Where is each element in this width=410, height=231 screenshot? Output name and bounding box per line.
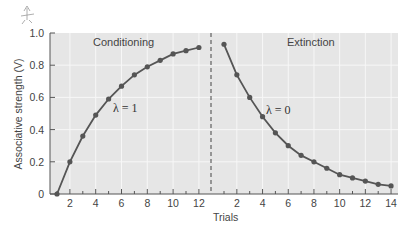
x-tick-label: 12 <box>193 197 205 209</box>
data-point <box>311 159 316 164</box>
x-tick-label: 10 <box>167 197 179 209</box>
plot-area <box>50 33 398 194</box>
y-tick-label: 0.2 <box>29 156 44 168</box>
data-point <box>260 114 265 119</box>
data-point <box>158 58 163 63</box>
conditioning-label: Conditioning <box>93 36 154 48</box>
data-point <box>93 113 98 118</box>
data-point <box>337 172 342 177</box>
data-point <box>286 143 291 148</box>
data-point <box>145 64 150 69</box>
data-point <box>80 133 85 138</box>
y-tick-label: 0 <box>38 188 44 200</box>
data-point <box>247 95 252 100</box>
data-point <box>54 191 59 196</box>
data-point <box>132 72 137 77</box>
x-axis-title: Trials <box>213 211 238 223</box>
y-axis-title: Associative strength (V) <box>12 59 24 170</box>
lambda-conditioning-label: λ = 1 <box>113 101 138 115</box>
data-point <box>388 183 393 188</box>
x-tick-label: 12 <box>360 197 372 209</box>
logo-icon <box>21 6 34 24</box>
x-tick-label: 2 <box>234 197 240 209</box>
x-tick-label: 6 <box>119 197 125 209</box>
y-tick-label: 0.6 <box>29 91 44 103</box>
data-point <box>234 72 239 77</box>
data-point <box>350 175 355 180</box>
data-point <box>106 96 111 101</box>
data-point <box>183 48 188 53</box>
chart: 00.20.40.60.81.0 246810122468101214 Cond… <box>0 0 410 231</box>
data-point <box>299 153 304 158</box>
extinction-label: Extinction <box>287 36 335 48</box>
x-tick-label: 4 <box>93 197 99 209</box>
data-point <box>273 130 278 135</box>
data-point <box>171 51 176 56</box>
data-point <box>67 159 72 164</box>
data-point <box>363 179 368 184</box>
x-tick-label: 6 <box>285 197 291 209</box>
data-point <box>196 45 201 50</box>
y-tick-label: 0.4 <box>29 124 44 136</box>
x-tick-label: 10 <box>334 197 346 209</box>
y-tick-label: 1.0 <box>29 27 44 39</box>
x-tick-label: 2 <box>67 197 73 209</box>
x-tick-label: 8 <box>311 197 317 209</box>
data-point <box>324 166 329 171</box>
data-point <box>119 84 124 89</box>
x-tick-label: 4 <box>260 197 266 209</box>
x-tick-label: 14 <box>385 197 397 209</box>
lambda-extinction-label: λ = 0 <box>266 103 291 117</box>
data-point <box>376 182 381 187</box>
x-tick-label: 8 <box>144 197 150 209</box>
data-point <box>221 42 226 47</box>
y-tick-label: 0.8 <box>29 59 44 71</box>
